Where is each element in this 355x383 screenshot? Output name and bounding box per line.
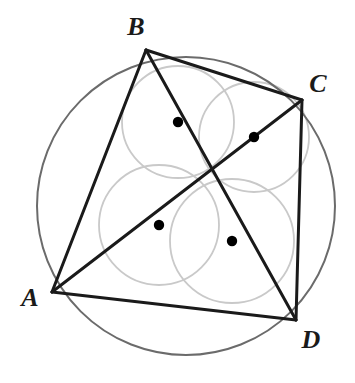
- incenter-dot-ACD: [227, 236, 237, 246]
- vertex-label-A: A: [19, 283, 38, 312]
- vertex-label-C: C: [309, 69, 327, 98]
- vertex-label-B: B: [126, 12, 144, 41]
- incenter-dot-BCD: [249, 132, 259, 142]
- incenter-dot-ABD: [154, 220, 164, 230]
- geometry-figure: A B C D: [0, 0, 355, 383]
- incenter-dot-ABC: [173, 117, 183, 127]
- vertex-label-D: D: [301, 325, 321, 354]
